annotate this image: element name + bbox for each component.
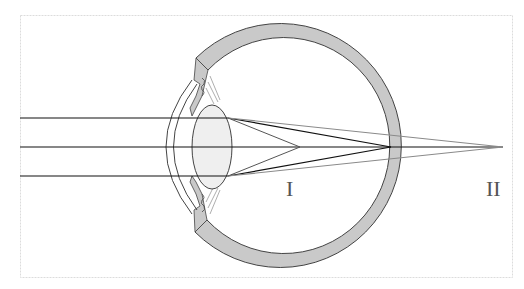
incoming-rays [20, 118, 503, 176]
eye-optics-diagram: I II [0, 0, 524, 289]
focus-label-1: I [286, 176, 293, 201]
focus-label-2: II [486, 176, 501, 201]
